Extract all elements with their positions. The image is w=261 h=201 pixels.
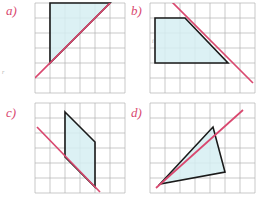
tick-mark-middle: i bbox=[152, 38, 154, 44]
panel-label-b: b) bbox=[131, 4, 142, 17]
panel-c-group bbox=[35, 103, 125, 193]
panel-b-shape bbox=[155, 18, 228, 63]
tick-mark-left: r bbox=[2, 69, 4, 75]
panel-label-c: c) bbox=[6, 106, 16, 119]
panel-d-group bbox=[150, 103, 255, 193]
panel-b-group bbox=[150, 0, 255, 93]
panel-a-group bbox=[35, 0, 125, 93]
panel-a-graph bbox=[0, 0, 261, 201]
panel-label-d: d) bbox=[131, 106, 142, 119]
figure-canvas: a) b) c) d) r i bbox=[0, 0, 261, 201]
